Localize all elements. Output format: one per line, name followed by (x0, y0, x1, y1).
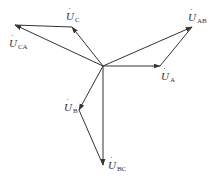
phasor-uca (15, 25, 103, 66)
label-uc: ˙UC (66, 11, 80, 24)
label-ubc: ˙UBC (108, 160, 126, 173)
phasor-uc (72, 27, 103, 66)
label-uab: ˙UAB (188, 12, 207, 25)
label-ub: ˙UB (64, 102, 78, 115)
label-uca: ˙UCA (9, 38, 28, 51)
phasor-lines (0, 0, 214, 181)
connector-b-to-bc (79, 110, 103, 165)
connector-a-to-ab (160, 27, 192, 66)
phasor-uab (103, 27, 192, 66)
connector-c-to-ca (15, 25, 72, 27)
phasor-diagram: ˙UC ˙UCA ˙UAB ˙UA ˙UB ˙UBC (0, 0, 214, 181)
phasor-ub (79, 66, 103, 110)
label-ua: ˙UA (161, 71, 175, 84)
